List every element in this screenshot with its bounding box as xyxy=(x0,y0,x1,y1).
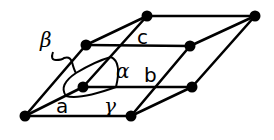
lattice-point-a xyxy=(126,111,137,122)
label-gamma: γ xyxy=(104,94,116,118)
label-beta: β xyxy=(39,28,52,52)
lattice-point-ab xyxy=(187,82,198,93)
label-c: c xyxy=(137,25,148,49)
lattice-point-abc xyxy=(250,11,261,22)
edge-a-to-ac xyxy=(131,46,190,116)
lattice-point-c xyxy=(81,40,92,51)
label-b: b xyxy=(144,63,157,87)
edge-ab-to-abc xyxy=(192,16,255,87)
label-alpha: α xyxy=(116,59,130,83)
edge-ac-to-abc xyxy=(190,16,255,46)
edge-b xyxy=(25,87,83,116)
edge-a-to-ab xyxy=(131,87,192,116)
label-a: a xyxy=(56,94,68,118)
lattice-point-b xyxy=(78,82,89,93)
unit-cell-diagram: a b c α β γ xyxy=(0,0,274,140)
lattice-point-origin xyxy=(20,111,31,122)
lattice-point-bc xyxy=(142,11,153,22)
lattice-point-ac xyxy=(185,41,196,52)
